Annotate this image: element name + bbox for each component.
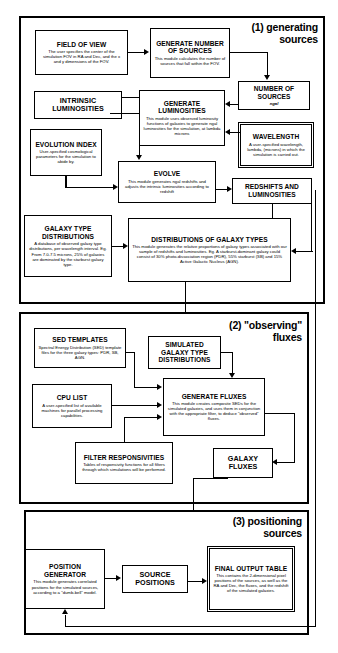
connector-redshifts-left — [295, 251, 313, 252]
connector-intrinsic-to-evolve-h — [110, 113, 140, 114]
section-3-title-line2: sources — [168, 528, 302, 540]
connector-sim-to-genflux-v — [232, 352, 233, 375]
generate-luminosities-desc: This module uses observed luminosity fun… — [142, 116, 222, 136]
field-of-view-desc: The user specifies the center of the sim… — [38, 49, 125, 64]
galaxy-type-distributions-desc: A database of observed galaxy type distr… — [27, 241, 109, 266]
connector-genflux-to-galflux-v — [294, 413, 295, 463]
evolve-title: EVOLVE — [154, 170, 181, 178]
connector-redshifts-down — [311, 191, 312, 252]
connector-cpu-to-genflux — [112, 405, 158, 406]
section-3-title-line1: (3) positioning — [168, 516, 302, 528]
redshifts-and-luminosities-title: REDSHIFTS AND LUMINOSITIES — [235, 183, 309, 198]
connector-feedback-v — [315, 190, 316, 627]
connector-fov-to-gen-number — [128, 52, 145, 53]
arrowhead-wavelength-to-genlum — [225, 129, 230, 135]
section-3-title: (3) positioning sources — [168, 516, 302, 539]
final-output-table-title: FINAL OUTPUT TABLE — [215, 565, 287, 573]
connector-gennum-to-numsrc-v — [267, 52, 268, 77]
box-final-output-table: FINAL OUTPUT TABLE This contains the 2-d… — [209, 548, 293, 610]
box-sed-templates: SED TEMPLATES Spectral Energy Distributi… — [34, 328, 126, 368]
source-positions-title: SOURCE POSITIONS — [125, 571, 185, 588]
sed-templates-desc: Spectral Energy Distribution (SED) templ… — [37, 345, 123, 360]
box-filter-responsivities: FILTER RESPONSIVITIES Tables of responsi… — [75, 442, 173, 484]
number-of-sources-title: NUMBER OF SOURCES — [241, 85, 307, 100]
generate-luminosities-title: GENERATE LUMINOSITIES — [142, 100, 222, 115]
connector-feedback-h — [65, 626, 315, 627]
arrowhead-posgen-to-srcpos — [116, 575, 121, 581]
box-generate-luminosities: GENERATE LUMINOSITIES This module uses o… — [139, 90, 225, 146]
connector-genflux-to-galflux-h1 — [265, 413, 295, 414]
box-generate-number-of-sources: GENERATE NUMBER OF SOURCES This module c… — [150, 28, 230, 78]
connector-galflux-to-final-top — [193, 478, 228, 479]
arrowhead-redshifts-to-distgt — [291, 248, 296, 254]
box-number-of-sources: NUMBER OF SOURCES ngal — [238, 81, 310, 110]
box-distributions-of-galaxy-types: DISTRIBUTIONS OF GALAXY TYPES This modul… — [128, 218, 291, 282]
arrowhead-srcpos-to-final — [202, 578, 207, 584]
galaxy-fluxes-title: GALAXY FLUXES — [216, 455, 270, 472]
wavelength-title: WAVELENGTH — [253, 133, 300, 141]
box-redshifts-and-luminosities: REDSHIFTS AND LUMINOSITIES — [232, 178, 312, 204]
connector-numsrc-to-genlum — [230, 104, 238, 105]
generate-fluxes-desc: This module creates composite SEDs for t… — [166, 401, 262, 421]
position-generator-desc: This module generates correlated positio… — [28, 579, 102, 594]
simulated-galaxy-type-distributions-title: SIMULATED GALAXY TYPE DISTRIBUTIONS — [151, 341, 218, 364]
intrinsic-luminosities-title: INTRINSIC LUMINOSITIES — [37, 97, 119, 114]
sed-templates-title: SED TEMPLATES — [52, 336, 107, 344]
final-output-table-desc: This contains the 2-dimensional pixel po… — [212, 573, 290, 593]
box-field-of-view: FIELD OF VIEW The user specifies the cen… — [35, 30, 128, 75]
number-of-sources-sub: ngal — [270, 101, 279, 106]
arrowhead-sed-to-genflux — [157, 384, 162, 390]
connector-filter-to-genflux-v — [124, 418, 125, 443]
connector-wavelength-to-genlum — [229, 132, 240, 133]
evolve-desc: This module generates ngal redshifts and… — [121, 179, 213, 194]
box-galaxy-fluxes: GALAXY FLUXES — [213, 448, 273, 478]
field-of-view-title: FIELD OF VIEW — [57, 41, 106, 49]
flowchart-canvas: (1) generating sources FIELD OF VIEW The… — [0, 0, 338, 653]
connector-evolidx-to-evolve-h — [65, 187, 115, 188]
arrowhead-feedback-to-posgen — [62, 609, 68, 614]
arrowhead-intrinsic-to-evolve — [136, 155, 142, 160]
evolution-index-desc: User-specified cosmological parameters f… — [33, 149, 99, 164]
distributions-of-galaxy-types-desc: This module generates the relative propo… — [131, 244, 288, 264]
box-source-positions: SOURCE POSITIONS — [122, 565, 188, 593]
distributions-of-galaxy-types-title: DISTRIBUTIONS OF GALAXY TYPES — [151, 236, 267, 244]
box-intrinsic-luminosities: INTRINSIC LUMINOSITIES — [34, 91, 122, 119]
connector-sed-to-genflux-v — [134, 352, 135, 388]
connector-genflux-to-galflux-h2 — [277, 462, 294, 463]
box-cpu-list: CPU LIST A user-specified list of availa… — [32, 384, 112, 428]
box-simulated-galaxy-type-distributions: SIMULATED GALAXY TYPE DISTRIBUTIONS — [148, 336, 221, 369]
connector-filter-to-genflux-h — [124, 417, 160, 418]
cpu-list-title: CPU LIST — [57, 394, 87, 402]
generate-number-of-sources-desc: This module calculates the number of sou… — [153, 56, 227, 66]
galaxy-type-distributions-title: GALAXY TYPE DISTRIBUTIONS — [27, 225, 109, 240]
generate-number-of-sources-title: GENERATE NUMBER OF SOURCES — [153, 40, 227, 55]
connector-intrinsic-to-evolve-v — [139, 113, 140, 157]
arrowhead-gennum-to-numsrc — [264, 75, 270, 80]
box-wavelength: WAVELENGTH A user-specified wavelength, … — [240, 124, 312, 166]
box-evolve: EVOLVE This module generates ngal redshi… — [118, 161, 216, 203]
connector-sed-to-genflux-h2 — [134, 387, 160, 388]
box-position-generator: POSITION GENERATOR This module generates… — [25, 549, 105, 609]
arrowhead-cpu-to-genflux — [157, 402, 162, 408]
evolution-index-title: EVOLUTION INDEX — [35, 141, 96, 149]
filter-responsivities-desc: Tables of responsivity functions for all… — [78, 462, 170, 472]
cpu-list-desc: A user-specified list of available machi… — [35, 403, 109, 418]
arrowhead-fov-to-gen-number — [144, 49, 149, 55]
box-evolution-index: EVOLUTION INDEX User-specified cosmologi… — [30, 129, 102, 176]
position-generator-title: POSITION GENERATOR — [28, 563, 102, 578]
connector-feedback-up — [65, 615, 66, 626]
generate-fluxes-title: GENERATE FLUXES — [182, 393, 247, 401]
arrowhead-numsrc-to-genlum — [225, 101, 230, 107]
box-galaxy-type-distributions: GALAXY TYPE DISTRIBUTIONS A database of … — [24, 215, 112, 277]
connector-gennum-to-numsrc-h — [230, 52, 268, 53]
section-2-title-line1: (2) "observing" — [165, 320, 302, 332]
filter-responsivities-title: FILTER RESPONSIVITIES — [84, 454, 164, 462]
wavelength-desc: A user-specified wavelength, lambda, (mi… — [243, 142, 309, 157]
box-generate-fluxes: GENERATE FLUXES This module creates comp… — [163, 378, 265, 436]
arrowhead-filter-to-genflux — [157, 414, 162, 420]
